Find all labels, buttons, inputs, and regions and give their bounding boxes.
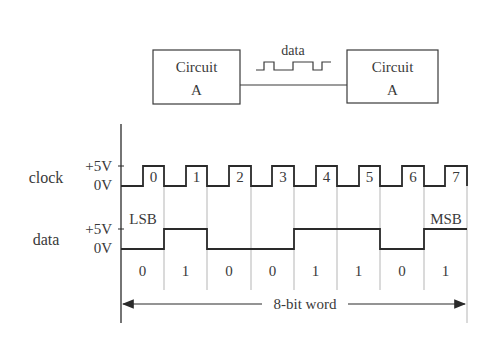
bit-value-1: 1: [182, 263, 190, 279]
data-waveform: [121, 229, 467, 249]
pulse-label-7: 7: [452, 169, 460, 185]
clock-pulse-labels: 0 1 2 3 4 5 6 7: [150, 169, 461, 185]
clock-row-label: clock: [29, 169, 64, 186]
clock-low-level: 0V: [94, 177, 113, 193]
pulse-label-5: 5: [366, 169, 374, 185]
data-row-label: data: [33, 231, 60, 248]
pulse-label-6: 6: [409, 169, 417, 185]
block-diagram: Circuit A Circuit A data: [153, 43, 438, 104]
serial-transmission-diagram: Circuit A Circuit A data clock +5V 0V: [0, 0, 492, 349]
bit-value-2: 0: [225, 263, 233, 279]
bit-value-7: 1: [442, 263, 450, 279]
pulse-label-4: 4: [323, 169, 331, 185]
bit-value-3: 0: [269, 263, 277, 279]
bit-value-4: 1: [312, 263, 320, 279]
word-span-label: 8-bit word: [274, 296, 337, 312]
pulse-label-0: 0: [150, 169, 158, 185]
data-link-label: data: [281, 43, 305, 58]
circuit-right-label-1: Circuit: [372, 59, 414, 75]
circuit-left-label-2: A: [191, 82, 202, 98]
pulse-label-2: 2: [236, 169, 244, 185]
mini-waveform-icon: [256, 62, 331, 70]
bit-value-0: 0: [139, 263, 147, 279]
timing-diagram: clock +5V 0V data +5V 0V 0 1 2 3 4 5 6 7…: [29, 124, 467, 323]
msb-label: MSB: [430, 211, 462, 227]
data-low-level: 0V: [94, 240, 113, 256]
pulse-label-1: 1: [193, 169, 201, 185]
bit-value-6: 0: [398, 263, 406, 279]
circuit-left-label-1: Circuit: [176, 59, 218, 75]
bit-value-5: 1: [355, 263, 363, 279]
circuit-right-label-2: A: [387, 82, 398, 98]
lsb-label: LSB: [129, 211, 157, 227]
data-high-level: +5V: [85, 221, 112, 237]
pulse-label-3: 3: [279, 169, 287, 185]
clock-high-level: +5V: [85, 158, 112, 174]
